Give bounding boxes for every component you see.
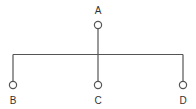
label-c: C	[94, 95, 101, 106]
node-a	[94, 21, 101, 28]
label-d: D	[179, 95, 186, 106]
node-b	[9, 81, 16, 88]
label-b: B	[10, 95, 17, 106]
label-a: A	[95, 5, 102, 16]
connectors	[13, 29, 183, 81]
node-d	[179, 81, 186, 88]
tree-diagram: A B C D	[0, 0, 196, 109]
node-c	[94, 81, 101, 88]
